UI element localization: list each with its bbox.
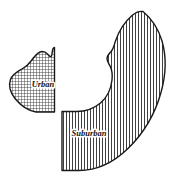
suburban-region-label: Suburban [72, 128, 107, 138]
zone-map-svg: Urban Suburban [0, 0, 173, 180]
urban-region-label: Urban [32, 79, 55, 89]
figure-root: Urban Suburban [0, 0, 173, 180]
